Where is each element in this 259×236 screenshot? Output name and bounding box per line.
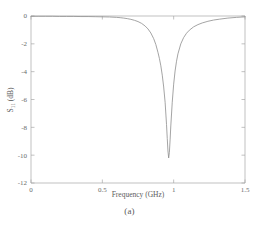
axis-frame <box>31 16 245 183</box>
y-tick-label: -2 <box>21 40 27 48</box>
x-axis-title: Frequency (GHz) <box>112 190 165 199</box>
x-axis-ticks: 00.511.5 <box>29 16 250 194</box>
x-tick-label: 0.5 <box>98 186 107 194</box>
y-tick-label: -12 <box>18 179 28 187</box>
s11-line-chart: 0-2-4-6-8-10-12 00.511.5 Frequency (GHz)… <box>0 0 259 200</box>
y-axis-title: S11 (dB) <box>6 87 16 112</box>
figure-caption: (a) <box>0 206 259 216</box>
y-tick-label: -6 <box>21 96 27 104</box>
y-axis-title-units: (dB) <box>6 87 15 103</box>
figure-container: 0-2-4-6-8-10-12 00.511.5 Frequency (GHz)… <box>0 0 259 236</box>
chart-plot-area: 0-2-4-6-8-10-12 00.511.5 Frequency (GHz)… <box>0 0 259 200</box>
y-tick-label: -10 <box>18 152 28 160</box>
s11-curve <box>31 16 245 158</box>
x-tick-label: 1.5 <box>241 186 250 194</box>
x-tick-label: 0 <box>29 186 33 194</box>
y-tick-label: 0 <box>24 12 28 20</box>
y-axis-ticks: 0-2-4-6-8-10-12 <box>18 12 245 187</box>
svg-text:S11 (dB): S11 (dB) <box>6 87 16 112</box>
x-tick-label: 1 <box>172 186 176 194</box>
y-tick-label: -4 <box>21 68 27 76</box>
y-tick-label: -8 <box>21 124 27 132</box>
